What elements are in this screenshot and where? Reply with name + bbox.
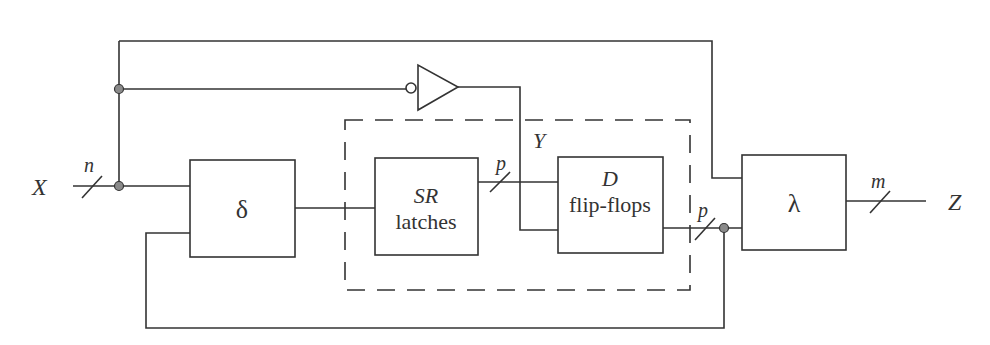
junction-dot (115, 182, 124, 191)
latch-bus-width-label: p (494, 152, 506, 175)
sr-label: SR (414, 183, 439, 208)
flipflops-label: flip-flops (569, 192, 651, 217)
junction-dot (115, 85, 124, 94)
junction-dot (720, 224, 729, 233)
lambda-label: λ (788, 189, 801, 218)
clock-y-label: Y (533, 128, 548, 153)
state-bus-width-label: p (696, 199, 708, 222)
d-label: D (601, 166, 618, 191)
delta-label: δ (236, 195, 248, 224)
inverter-gate (418, 65, 458, 110)
circuit-diagram: X n δ SR latches p Y D flip-flops p λ m … (0, 0, 990, 345)
input-bus-slash (82, 176, 102, 198)
inverter-bubble (406, 83, 416, 93)
state-bus-slash (695, 218, 715, 240)
input-x-label: X (31, 174, 48, 200)
output-z-label: Z (948, 189, 962, 215)
latches-label: latches (395, 209, 456, 234)
output-width-label: m (871, 170, 885, 192)
input-width-label: n (84, 154, 94, 176)
output-bus-slash (870, 191, 890, 213)
